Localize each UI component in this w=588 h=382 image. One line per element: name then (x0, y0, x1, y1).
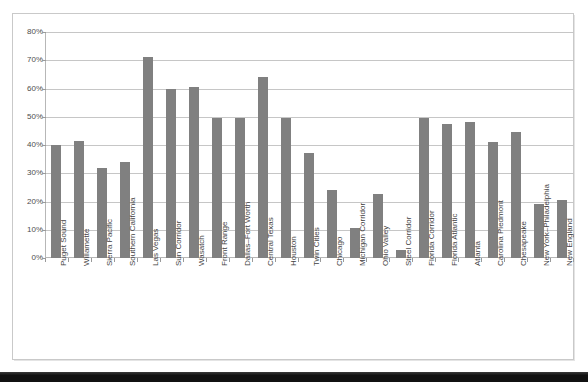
x-tick-label: Sun Corridor (175, 221, 183, 266)
x-label-slot: Puget Sound (45, 264, 68, 359)
x-tick-mark (45, 258, 46, 262)
x-label-slot: New York–Philadelphia (527, 264, 550, 359)
x-tick-label: Chesapeake (520, 221, 528, 266)
frame-shadow-right (574, 15, 575, 360)
x-tick-label: Wasatch (198, 235, 206, 266)
y-tick-label: 10% (15, 226, 43, 234)
x-axis-labels: Puget SoundWillametteSierra PacificSouth… (45, 264, 573, 359)
x-label-slot: Chesapeake (504, 264, 527, 359)
x-label-slot: Houston (275, 264, 298, 359)
x-tick-label: Florida Atlantic (451, 214, 459, 266)
x-tick-label: Steel Corridor (405, 217, 413, 266)
x-tick-label: Front Range (221, 222, 229, 266)
x-tick-mark (91, 258, 92, 262)
y-tick-label: 0% (15, 254, 43, 262)
frame-shadow-bottom (14, 360, 575, 361)
x-tick-label: Carolina Piedmont (497, 200, 505, 266)
x-label-slot: Ohio Valley (366, 264, 389, 359)
x-tick-label: Twin Cities (313, 227, 321, 266)
bottom-band-gloss (0, 372, 588, 375)
x-tick-label: Houston (290, 236, 298, 266)
x-tick-label: Ohio Valley (382, 226, 390, 266)
x-label-slot: Florida Atlantic (435, 264, 458, 359)
x-tick-label: Sierra Pacific (106, 219, 114, 266)
bar-slot[interactable] (298, 32, 321, 258)
bar-slot[interactable] (458, 32, 481, 258)
y-tick-label: 50% (15, 113, 43, 121)
bars-group (45, 32, 573, 258)
bar-slot[interactable] (366, 32, 389, 258)
bar-slot[interactable] (68, 32, 91, 258)
x-tick-mark (68, 258, 69, 262)
x-label-slot: Atlanta (458, 264, 481, 359)
x-label-slot: Wasatch (183, 264, 206, 359)
x-label-slot: Central Texas (252, 264, 275, 359)
bar[interactable] (465, 122, 475, 258)
x-label-slot: Willamette (68, 264, 91, 359)
bar-slot[interactable] (275, 32, 298, 258)
x-tick-label: Dallas–Fort Worth (244, 202, 252, 266)
x-label-slot: Twin Cities (298, 264, 321, 359)
x-tick-label: Willamette (83, 229, 91, 266)
x-tick-label: Central Texas (267, 217, 275, 266)
chart-frame: 80%70%60%50%40%30%20%10%0% Puget SoundWi… (12, 13, 574, 360)
x-label-slot: Steel Corridor (389, 264, 412, 359)
x-tick-label: Puget Sound (60, 220, 68, 266)
y-tick-label: 70% (15, 56, 43, 64)
x-label-slot: New England (550, 264, 573, 359)
x-tick-label: Michigan Corridor (359, 203, 367, 266)
bar[interactable] (189, 87, 199, 258)
x-label-slot: Dallas–Fort Worth (229, 264, 252, 359)
y-tick-label: 30% (15, 169, 43, 177)
x-label-slot: Front Range (206, 264, 229, 359)
y-axis: 80%70%60%50%40%30%20%10%0% (13, 14, 43, 361)
x-tick-label: Chicago (336, 237, 344, 266)
y-tick-label: 20% (15, 198, 43, 206)
x-label-slot: Las Vegas (137, 264, 160, 359)
y-tick-label: 40% (15, 141, 43, 149)
bar-chart: 80%70%60%50%40%30%20%10%0% Puget SoundWi… (13, 14, 575, 361)
x-tick-label: Las Vegas (152, 229, 160, 266)
x-label-slot: Michigan Corridor (343, 264, 366, 359)
x-tick-label: Atlanta (474, 241, 482, 266)
bar-slot[interactable] (183, 32, 206, 258)
x-label-slot: Florida Corridor (412, 264, 435, 359)
x-tick-mark (114, 258, 115, 262)
bar-slot[interactable] (320, 32, 343, 258)
x-axis-ticks (45, 258, 573, 262)
x-tick-label: Florida Corridor (428, 210, 436, 266)
x-label-slot: Carolina Piedmont (481, 264, 504, 359)
x-label-slot: Southern California (114, 264, 137, 359)
x-label-slot: Sierra Pacific (91, 264, 114, 359)
bar-slot[interactable] (137, 32, 160, 258)
x-tick-label: New York–Philadelphia (543, 184, 551, 266)
x-tick-label: Southern California (129, 198, 137, 266)
y-tick-label: 80% (15, 28, 43, 36)
x-label-slot: Sun Corridor (160, 264, 183, 359)
x-label-slot: Chicago (320, 264, 343, 359)
x-tick-label: New England (566, 218, 574, 266)
y-tick-label: 60% (15, 85, 43, 93)
